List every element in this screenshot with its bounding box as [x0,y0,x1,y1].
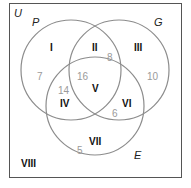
region-label-i: I [50,42,53,53]
region-label-v: V [92,83,99,94]
region-label-ii: II [92,42,98,53]
region-count-vi: 6 [112,108,118,119]
region-count-v: 16 [77,71,89,82]
universe-label: U [14,7,22,19]
region-label-iv: IV [60,98,70,109]
set-label-e: E [134,149,142,161]
set-label-p: P [32,16,40,28]
set-label-g: G [154,16,163,28]
region-label-viii: VIII [21,158,36,169]
region-count-vii: 5 [77,145,83,156]
region-count-iii: 10 [147,71,159,82]
region-count-ii: 8 [107,52,113,63]
venn-diagram: U P G E I II III IV V VI VII VIII 7 8 10… [0,0,191,188]
region-count-iv: 14 [58,85,70,96]
region-label-vi: VI [122,98,132,109]
region-count-i: 7 [37,71,43,82]
region-label-iii: III [134,42,143,53]
region-label-vii: VII [89,136,101,147]
